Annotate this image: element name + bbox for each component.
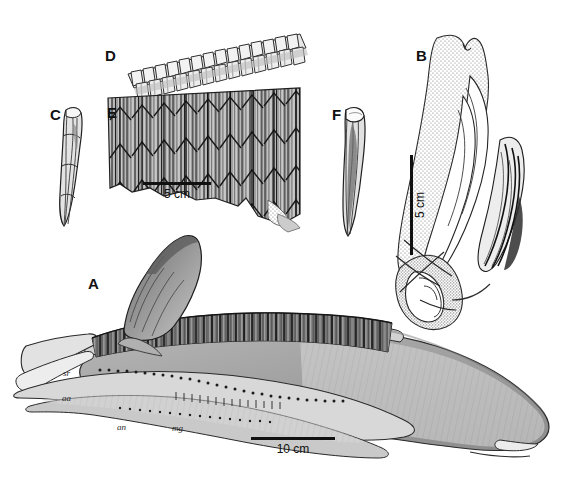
- panel-label-b: B: [416, 48, 427, 63]
- scale-bar-5cm-panel-b: 5 cm: [410, 155, 430, 255]
- figure-artwork: [0, 0, 573, 489]
- anatomical-label-sr: sr: [63, 369, 70, 378]
- scale-bar-label: 5 cm: [413, 192, 427, 218]
- panel-d-artwork: [128, 34, 308, 100]
- panel-f-artwork: [343, 108, 365, 236]
- panel-label-e: E: [107, 105, 117, 120]
- panel-a-artwork: [14, 236, 549, 458]
- panel-label-f: F: [332, 107, 341, 122]
- panel-c-artwork: [60, 108, 82, 226]
- anatomical-label-an: an: [117, 423, 126, 432]
- scale-bar-label: 5 cm: [143, 187, 211, 201]
- panel-label-a: A: [88, 276, 99, 291]
- figure-container: D E C F B A sr aa an mg 5 cm 5 cm 10 cm: [0, 0, 573, 489]
- panel-label-d: D: [105, 48, 116, 63]
- panel-label-c: C: [50, 107, 61, 122]
- anatomical-label-aa: aa: [62, 394, 71, 403]
- anatomical-label-mg: mg: [172, 424, 183, 433]
- scale-bar-5cm-panel-e: 5 cm: [143, 182, 211, 201]
- scale-bar-10cm-panel-a: 10 cm: [251, 437, 335, 456]
- panel-e-artwork: [108, 88, 307, 232]
- suture-dot-row: [99, 369, 345, 403]
- scale-bar-label: 10 cm: [251, 442, 335, 456]
- scale-bar-line: [251, 437, 335, 440]
- scale-bar-line: [143, 182, 211, 185]
